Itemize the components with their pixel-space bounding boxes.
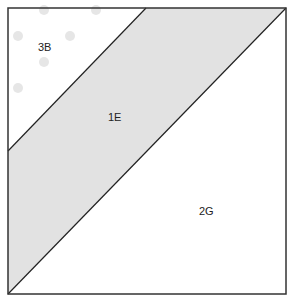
- label-1e: 1E: [108, 111, 121, 123]
- quilt-block-diagram: 3B 1E 2G: [0, 0, 293, 305]
- label-2g: 2G: [199, 205, 214, 217]
- label-3b: 3B: [38, 41, 51, 53]
